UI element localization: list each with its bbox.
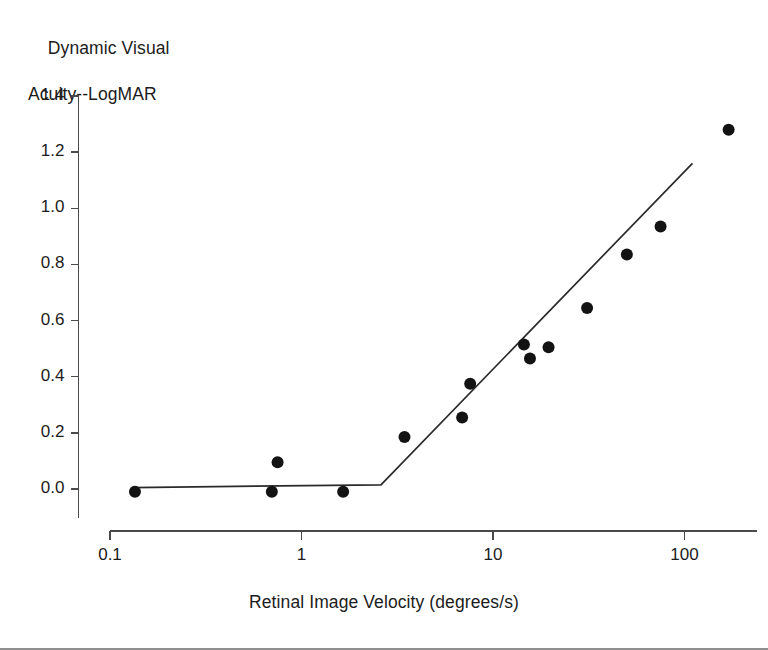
y-tick-label-6: 1.2 [7,141,65,161]
chart-figure: Dynamic Visual Acuity--LogMAR 0.00.20.40… [0,0,768,650]
x-tick-label-2: 10 [458,545,528,565]
data-point-11 [621,249,633,261]
data-point-8 [524,352,536,364]
data-point-5 [456,411,468,423]
data-point-3 [337,486,349,498]
data-point-13 [723,124,735,136]
data-points [129,124,735,498]
data-point-12 [655,221,667,233]
x-tick-label-3: 100 [650,545,720,565]
y-tick-label-7: 1.4 [7,85,65,105]
data-point-0 [129,486,141,498]
data-point-9 [543,341,555,353]
x-axis-title: Retinal Image Velocity (degrees/s) [0,592,768,613]
y-tick-label-4: 0.8 [7,253,65,273]
x-tick-label-0: 0.1 [75,545,145,565]
y-tick-label-5: 1.0 [7,197,65,217]
y-tick-label-3: 0.6 [7,310,65,330]
data-point-1 [266,486,278,498]
x-tick-label-1: 1 [267,545,337,565]
data-point-10 [581,302,593,314]
y-tick-label-2: 0.4 [7,366,65,386]
data-point-7 [518,338,530,350]
data-point-6 [464,378,476,390]
fit-line [132,163,693,487]
data-point-2 [272,456,284,468]
piecewise-fit-line [132,163,693,487]
data-point-4 [398,431,410,443]
y-tick-label-1: 0.2 [7,422,65,442]
y-tick-label-0: 0.0 [7,478,65,498]
axes [0,96,768,649]
